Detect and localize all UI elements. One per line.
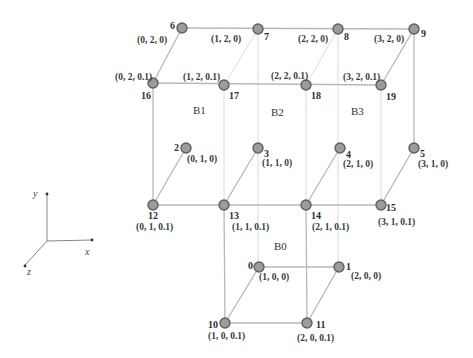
node-4 (335, 143, 345, 153)
node-3 (253, 143, 263, 153)
node-0 (254, 262, 264, 272)
coord-17: (1, 2, 0.1) (183, 72, 220, 83)
coord-2: (0, 1, 0) (187, 154, 217, 165)
axis-y-label: y (32, 188, 38, 199)
node-id-19: 19 (386, 91, 396, 102)
node-id-0: 0 (248, 260, 253, 271)
node-14 (301, 200, 311, 210)
node-id-8: 8 (344, 31, 349, 42)
coord-9: (3, 2, 0) (374, 34, 404, 45)
coord-13: (1, 1, 0.1) (232, 222, 269, 233)
node-12 (148, 200, 158, 210)
coord-8: (2, 2, 0) (298, 34, 328, 45)
nodes (148, 23, 419, 328)
coordinate-labels: (0, 2, 0) (1, 2, 0) (2, 2, 0) (3, 2, 0) … (115, 34, 448, 344)
node-id-9: 9 (421, 28, 426, 39)
coord-10: (1, 0, 0.1) (208, 331, 245, 342)
node-17 (219, 80, 229, 90)
node-id-18: 18 (311, 90, 321, 101)
coord-11: (2, 0, 0.1) (297, 333, 334, 344)
node-2 (181, 143, 191, 153)
node-7 (253, 24, 263, 34)
node-id-12: 12 (148, 210, 158, 221)
node-id-14: 14 (311, 210, 321, 221)
coord-7: (1, 2, 0) (211, 34, 241, 45)
coord-14: (2, 1, 0.1) (312, 222, 349, 233)
coord-15: (3, 1, 0.1) (378, 217, 415, 228)
coord-16: (0, 2, 0.1) (115, 72, 152, 83)
coord-0: (1, 0, 0) (259, 272, 289, 283)
node-11 (302, 318, 312, 328)
node-id-11: 11 (316, 319, 325, 330)
coord-18: (2, 2, 0.1) (271, 71, 308, 82)
node-id-5: 5 (420, 148, 425, 159)
node-id-2: 2 (174, 142, 179, 153)
node-18 (301, 80, 311, 90)
node-id-7: 7 (264, 31, 269, 42)
block-label-b0: B0 (274, 240, 287, 252)
node-id-13: 13 (229, 210, 239, 221)
axis-triad: y x z (24, 188, 94, 277)
node-id-6: 6 (170, 20, 175, 31)
node-id-17: 17 (229, 90, 239, 101)
coord-19: (3, 2, 0.1) (343, 72, 380, 83)
node-5 (409, 143, 419, 153)
node-id-labels: 6 7 8 9 16 17 18 19 2 3 4 5 12 13 14 15 … (141, 20, 426, 330)
coord-12: (0, 1, 0.1) (136, 222, 173, 233)
node-10 (220, 318, 230, 328)
node-15 (376, 200, 386, 210)
node-6 (177, 23, 187, 33)
node-id-15: 15 (386, 202, 396, 213)
block-label-b2: B2 (271, 106, 284, 118)
axis-x-label: x (84, 246, 90, 257)
block-mesh-diagram: 6 7 8 9 16 17 18 19 2 3 4 5 12 13 14 15 … (0, 0, 473, 358)
block-label-b1: B1 (193, 104, 206, 116)
coord-1: (2, 0, 0) (351, 271, 381, 282)
node-9 (409, 24, 419, 34)
coord-5: (3, 1, 0) (418, 159, 448, 170)
coord-4: (2, 1, 0) (343, 159, 373, 170)
block-label-b3: B3 (351, 105, 364, 117)
coord-6: (0, 2, 0) (137, 35, 167, 46)
node-8 (333, 24, 343, 34)
node-1 (334, 262, 344, 272)
node-id-10: 10 (208, 319, 218, 330)
node-id-16: 16 (141, 90, 151, 101)
axis-z-label: z (26, 266, 31, 277)
node-13 (219, 200, 229, 210)
coord-3: (1, 1, 0) (262, 158, 292, 169)
